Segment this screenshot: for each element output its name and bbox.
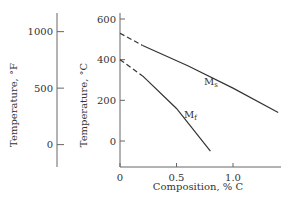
secondary-y-tick-label: 0 (47, 139, 53, 150)
series-label-Ms: Ms (204, 76, 218, 89)
series-Ms-dashed (120, 33, 143, 45)
secondary-y-tick-label: 1000 (28, 26, 53, 37)
x-tick-label: 0 (117, 172, 123, 183)
x-axis-label: Composition, % C (153, 181, 244, 192)
secondary-y-tick-label: 500 (34, 83, 53, 94)
y-tick-label: 600 (97, 14, 116, 25)
y-axis-label: Temperature, °C (78, 62, 89, 147)
series-Mf-line (143, 76, 211, 151)
y-tick-label: 200 (97, 95, 116, 106)
y-tick-label: 400 (97, 54, 116, 65)
series-Mf-dashed (120, 60, 143, 76)
y-tick-label: 0 (110, 136, 116, 147)
chart: 020040060000.51.005001000MsMf Temperatur… (0, 0, 292, 210)
secondary-y-axis-label: Temperature, °F (8, 63, 19, 147)
